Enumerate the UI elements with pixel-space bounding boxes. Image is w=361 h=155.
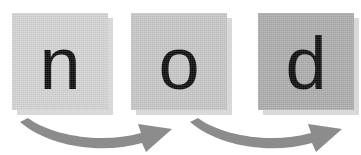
curved-blend-arrow-path-1 [20, 118, 172, 152]
curved-blend-arrow-path-2 [190, 118, 342, 152]
letter-tile-label-o: o [158, 27, 199, 101]
letter-tile-n[interactable]: n [12, 13, 108, 110]
curved-blend-arrow-1 [14, 116, 182, 155]
curved-blend-arrow-2 [184, 116, 352, 155]
letter-tile-label-d: d [285, 27, 326, 101]
letter-tile-label-n: n [39, 27, 80, 101]
letter-tile-o[interactable]: o [131, 13, 227, 110]
letter-tile-d[interactable]: d [258, 13, 354, 110]
letter-tiles-scene: n o d [0, 0, 361, 155]
